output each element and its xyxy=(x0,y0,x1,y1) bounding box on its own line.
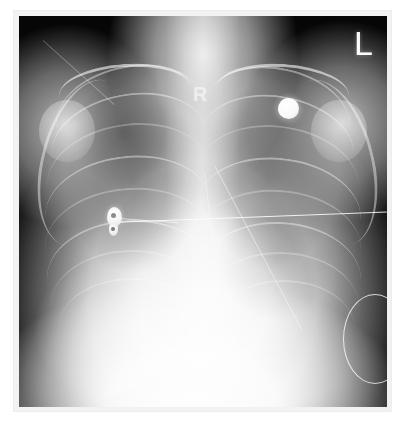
ecg-electrode-upper-icon xyxy=(278,98,299,119)
ecg-electrode-lower-icon xyxy=(105,207,124,237)
side-marker-left: L xyxy=(354,26,373,60)
electrode-clip-hole-lower xyxy=(111,227,115,231)
side-marker-right: R xyxy=(193,84,207,104)
radiograph-viewer[interactable]: L R xyxy=(0,0,404,425)
chest-xray-image[interactable]: L R xyxy=(19,16,387,407)
cable-oblique-left xyxy=(215,166,303,330)
cable-oblique-center xyxy=(205,172,224,346)
electrode-clip-hole xyxy=(111,213,116,218)
cable-upper-right xyxy=(43,40,115,105)
support-lines-and-leads xyxy=(19,16,387,407)
tubing-loop xyxy=(343,294,387,384)
